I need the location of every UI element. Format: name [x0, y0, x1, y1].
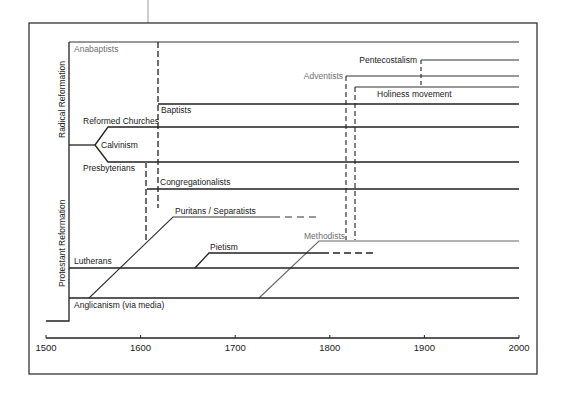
x-tick-label: 1800: [319, 342, 340, 353]
reformed-label: Reformed Churches: [83, 116, 159, 126]
congregationalists-label: Congregationalists: [160, 177, 230, 187]
methodists-label: Methodists: [304, 231, 345, 241]
denominations-diagram: Radical Reformation Protestant Reformati…: [0, 0, 563, 399]
presbyterians-label: Presbyterians: [83, 163, 135, 173]
methodists-line: [259, 241, 519, 298]
anglicanism-label: Anglicanism (via media): [74, 300, 164, 310]
puritans-label: Puritans / Separatists: [175, 206, 256, 216]
x-tick-label: 1900: [414, 342, 435, 353]
x-tick-label: 1500: [35, 342, 56, 353]
pietism-line: [195, 253, 322, 268]
protestant-reformation-label: Protestant Reformation: [57, 199, 67, 287]
x-tick-label: 2000: [508, 342, 529, 353]
pietism-label: Pietism: [210, 242, 238, 252]
x-tick-label: 1700: [225, 342, 246, 353]
adventists-label: Adventists: [304, 71, 343, 81]
anabaptists-label: Anabaptists: [74, 44, 118, 54]
pentecostalism-label: Pentecostalism: [359, 55, 417, 65]
puritans-line: [89, 217, 273, 298]
calvinism-label: Calvinism: [101, 140, 138, 150]
radical-reformation-label: Radical Reformation: [57, 61, 67, 138]
x-tick-label: 1600: [130, 342, 151, 353]
lutherans-label: Lutherans: [74, 256, 112, 266]
baptists-label: Baptists: [161, 105, 191, 115]
holiness-label: Holiness movement: [377, 89, 452, 99]
